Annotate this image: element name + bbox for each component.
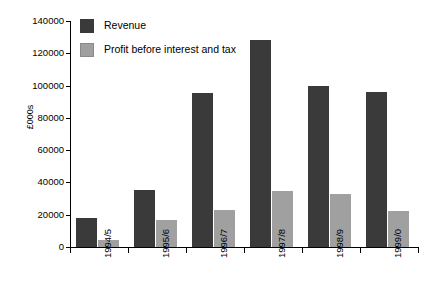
y-axis-title: £000s (25, 87, 35, 147)
bar-revenue (308, 86, 329, 247)
y-axis-tick-label: 0 (59, 242, 64, 252)
x-axis-tick-mark (186, 247, 187, 253)
bar-group (360, 21, 418, 247)
x-axis-tick-mark (244, 247, 245, 253)
x-axis-tick-mark (418, 247, 419, 253)
bar-revenue (76, 218, 97, 247)
legend-swatch-revenue (80, 19, 94, 33)
x-axis-tick-mark (302, 247, 303, 253)
x-axis-tick-label: 1994/5 (103, 229, 113, 258)
bar-chart: £000s 0200004000060000800001000001200001… (0, 0, 428, 304)
bar-revenue (134, 190, 155, 247)
x-axis-tick-label: 1997/8 (277, 229, 287, 258)
legend-item: Revenue (80, 17, 236, 34)
y-axis-tick-label: 40000 (38, 178, 64, 188)
bar-revenue (192, 93, 213, 247)
bar-revenue (250, 40, 271, 247)
x-axis-tick-label: 1996/7 (219, 229, 229, 258)
y-axis-tick-label: 100000 (32, 81, 64, 91)
chart-legend: RevenueProfit before interest and tax (80, 17, 236, 65)
x-axis-tick-label: 1998/9 (335, 229, 345, 258)
x-axis-tick-label: 1999/0 (393, 229, 403, 258)
y-axis-tick-label: 80000 (38, 113, 64, 123)
y-axis-tick-label: 60000 (38, 145, 64, 155)
bar-revenue (366, 92, 387, 247)
legend-label: Revenue (104, 20, 146, 31)
legend-swatch-profit (80, 43, 94, 57)
x-axis-tick-mark (360, 247, 361, 253)
x-axis-tick-label: 1995/6 (161, 229, 171, 258)
y-axis-tick-label: 120000 (32, 49, 64, 59)
y-axis-tick-label: 20000 (38, 210, 64, 220)
bar-group (302, 21, 360, 247)
legend-item: Profit before interest and tax (80, 41, 236, 58)
bar-group (244, 21, 302, 247)
x-axis-tick-mark (70, 247, 71, 253)
legend-label: Profit before interest and tax (104, 44, 236, 55)
y-axis-tick-label: 140000 (32, 16, 64, 26)
x-axis-tick-mark (128, 247, 129, 253)
